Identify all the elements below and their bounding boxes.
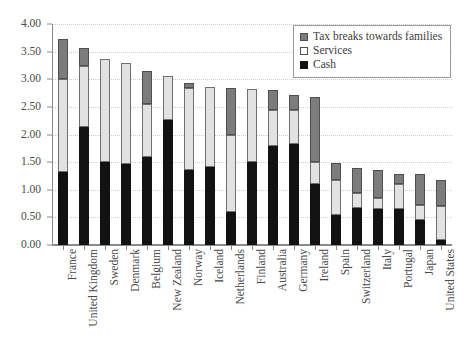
x-tick-label-united-kingdom: United Kingdom [88,249,100,327]
legend-item-tax-breaks: Tax breaks towards families [300,30,442,44]
x-tick-label-germany: Germany [298,249,310,292]
bar-segment-cash [310,184,320,245]
bar-segment-services [247,89,257,162]
x-tick-label-denmark: Denmark [130,249,142,292]
y-tick-label: 3.50 [21,46,41,58]
bar-australia[interactable] [268,24,278,245]
y-tick-label: 1.00 [21,184,41,196]
bar-segment-tax-breaks [289,95,299,110]
bar-segment-services [121,63,131,164]
y-axis: 0.000.501.001.502.002.503.003.504.00 [0,24,52,245]
legend-label-cash: Cash [313,59,336,71]
bar-segment-cash [163,120,173,245]
bar-segment-tax-breaks [142,71,152,104]
legend-label-tax: Tax breaks towards families [313,31,442,43]
y-tick-label: 0.00 [21,239,41,251]
bar-segment-services [352,193,362,208]
y-tick-label: 4.00 [21,18,41,30]
legend-swatch-services-icon [300,47,308,55]
bar-segment-tax-breaks [352,168,362,193]
bar-segment-services [58,79,68,171]
bar-segment-tax-breaks [184,83,194,87]
x-tick-label-finland: Finland [256,249,268,284]
bar-netherlands[interactable] [226,24,236,245]
bar-segment-services [373,198,383,209]
x-tick-label-switzerland: Switzerland [361,249,373,304]
bar-segment-tax-breaks [436,180,446,207]
bar-segment-services [415,205,425,220]
bar-segment-services [331,180,341,214]
bar-segment-tax-breaks [268,90,278,110]
bar-segment-cash [247,162,257,245]
x-tick-label-norway: Norway [193,249,205,286]
bar-segment-cash [415,220,425,245]
bar-segment-services [79,66,89,127]
bar-segment-services [289,110,299,145]
bar-norway[interactable] [184,24,194,245]
bar-segment-cash [226,212,236,245]
bar-segment-cash [142,157,152,245]
bar-segment-services [142,104,152,156]
bar-segment-services [205,87,215,167]
bar-france[interactable] [58,24,68,245]
x-tick-label-belgium: Belgium [151,249,163,289]
chart-legend: Tax breaks towards families Services Cas… [293,25,451,78]
y-tick-label: 1.50 [21,156,41,168]
x-tick-label-portugal: Portugal [403,249,415,288]
stacked-bar-chart: 0.000.501.001.502.002.503.003.504.00 Fra… [0,0,471,346]
x-axis-labels: FranceUnited KingdomSwedenDenmarkBelgium… [52,249,452,344]
legend-item-cash: Cash [300,58,442,72]
bar-united-kingdom[interactable] [79,24,89,245]
bar-segment-services [226,135,236,212]
x-tick-label-spain: Spain [340,249,352,275]
bar-segment-services [310,162,320,184]
x-tick-label-ireland: Ireland [319,249,331,282]
legend-item-services: Services [300,44,442,58]
bar-segment-tax-breaks [79,48,89,66]
bar-segment-cash [331,215,341,245]
legend-swatch-tax-icon [300,33,308,41]
bar-segment-services [268,110,278,146]
x-tick-label-sweden: Sweden [109,249,121,285]
legend-swatch-cash-icon [300,61,308,69]
bar-segment-cash [394,209,404,245]
bar-segment-services [436,206,446,240]
x-tick-label-united-states: United States [445,249,457,311]
bar-belgium[interactable] [142,24,152,245]
bar-segment-tax-breaks [331,163,341,180]
bar-new-zealand[interactable] [163,24,173,245]
x-tick-label-australia: Australia [277,249,289,291]
bar-segment-services [184,88,194,171]
bar-segment-cash [289,144,299,245]
x-tick-label-netherlands: Netherlands [235,249,247,305]
bar-segment-tax-breaks [394,174,404,184]
bar-segment-services [100,59,110,162]
x-tick-label-iceland: Iceland [214,249,226,283]
x-tick-label-new-zealand: New Zealand [172,249,184,311]
bar-segment-services [163,76,173,120]
x-tick-label-japan: Japan [424,249,436,275]
bar-sweden[interactable] [100,24,110,245]
y-tick-label: 0.50 [21,212,41,224]
bar-segment-cash [100,162,110,245]
bar-iceland[interactable] [205,24,215,245]
x-tick-label-france: France [67,249,79,280]
bar-segment-services [394,184,404,208]
bar-segment-cash [184,170,194,245]
bar-segment-cash [79,127,89,245]
bar-segment-tax-breaks [58,39,68,79]
bar-segment-cash [352,208,362,245]
bar-denmark[interactable] [121,24,131,245]
y-tick-label: 3.00 [21,74,41,86]
bar-segment-cash [373,209,383,245]
bar-segment-tax-breaks [415,174,425,205]
bar-finland[interactable] [247,24,257,245]
y-tick-label: 2.50 [21,101,41,113]
bar-segment-cash [205,167,215,245]
bar-segment-cash [121,164,131,245]
y-tick-label: 2.00 [21,129,41,141]
legend-label-services: Services [313,45,352,57]
x-tick-label-italy: Italy [382,249,394,270]
bar-segment-tax-breaks [310,97,320,162]
bar-segment-tax-breaks [373,170,383,198]
